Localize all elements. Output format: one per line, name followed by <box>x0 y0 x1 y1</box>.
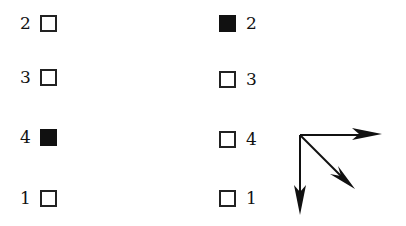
left-item-4: 1 <box>20 189 57 207</box>
right-item-1: 2 <box>219 14 257 32</box>
left-label-1: 2 <box>20 14 31 32</box>
left-square-2 <box>40 69 57 86</box>
left-square-4 <box>40 190 57 207</box>
right-square-1-filled <box>219 15 236 32</box>
right-square-3 <box>219 131 236 148</box>
arrow-right-icon <box>300 128 382 140</box>
direction-arrows <box>280 110 406 226</box>
right-label-3: 4 <box>246 130 257 148</box>
right-label-4: 1 <box>246 189 257 207</box>
left-square-3-filled <box>40 129 57 146</box>
left-label-3: 4 <box>20 128 31 146</box>
left-item-3: 4 <box>20 128 57 146</box>
right-item-2: 3 <box>219 70 257 88</box>
left-label-2: 3 <box>20 68 31 86</box>
right-square-2 <box>219 71 236 88</box>
right-item-3: 4 <box>219 130 257 148</box>
arrow-down-right-icon <box>300 135 355 189</box>
right-item-4: 1 <box>219 189 257 207</box>
right-square-4 <box>219 190 236 207</box>
left-item-1: 2 <box>20 14 57 32</box>
arrow-down-icon <box>294 135 306 215</box>
left-label-4: 1 <box>20 189 31 207</box>
left-square-1 <box>40 15 57 32</box>
left-item-2: 3 <box>20 68 57 86</box>
right-label-1: 2 <box>246 14 257 32</box>
right-label-2: 3 <box>246 70 257 88</box>
